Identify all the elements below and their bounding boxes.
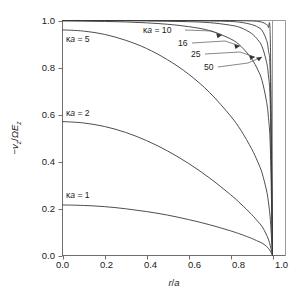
curve-label-ka10-eq: = 10 [152, 25, 172, 35]
curve-label-ka5-eq: = 5 [75, 34, 90, 44]
curve-label-25: 25 [191, 49, 201, 59]
curve-label-ka2-eq: = 2 [75, 108, 90, 118]
y-axis-title-E-sub: z [15, 121, 22, 126]
x-tick-label-0: 0.0 [56, 259, 69, 270]
chart-figure: 0.0 0.2 0.4 0.6 0.8 1.0 0.0 0.2 0.4 0.6 … [0, 0, 303, 296]
curve-label-ka1-eq: = 1 [75, 190, 90, 200]
y-tick-label-2: 0.4 [42, 156, 55, 167]
curve-label-ka2: κa = 2 [66, 108, 90, 118]
curve-label-ka10: κa = 10 [143, 25, 172, 35]
x-tick-label-5: 1.0 [275, 259, 288, 270]
curve-label-16: 16 [178, 38, 188, 48]
y-tick-label-1: 0.2 [42, 203, 55, 214]
x-axis-title-a: a [174, 277, 179, 288]
y-tick-label-3: 0.6 [42, 109, 55, 120]
curve-label-ka5: κa = 5 [66, 34, 90, 44]
curve-label-ka1: κa = 1 [66, 190, 90, 200]
x-axis-title: r/a [168, 277, 179, 288]
curve-label-50: 50 [204, 62, 214, 72]
x-tick-label-2: 0.4 [144, 259, 157, 270]
x-tick-label-3: 0.6 [188, 259, 201, 270]
y-tick-label-4: 0.8 [42, 62, 55, 73]
x-tick-label-1: 0.2 [100, 259, 113, 270]
y-tick-label-5: 1.0 [42, 15, 55, 26]
y-axis-title-omega: Ω [9, 131, 20, 138]
y-tick-label-0: 0.0 [42, 250, 55, 261]
x-tick-label-4: 0.8 [232, 259, 245, 270]
y-axis-title: −vz/ΩEz [9, 121, 22, 155]
velocity-profile-chart: 0.0 0.2 0.4 0.6 0.8 1.0 0.0 0.2 0.4 0.6 … [0, 0, 303, 296]
